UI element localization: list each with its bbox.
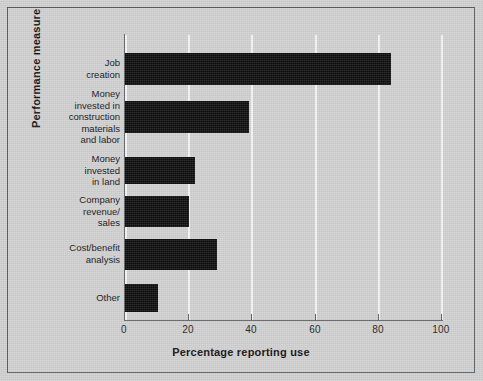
bar-other[interactable] — [125, 284, 158, 312]
chart-screenshot: 0 20 40 60 80 100 Job creation Money inv… — [0, 0, 483, 381]
x-tick-80 — [378, 314, 379, 321]
plot-area — [125, 35, 442, 320]
x-tick-label-20: 20 — [182, 324, 194, 335]
x-tick-20 — [188, 314, 189, 321]
x-tick-60 — [315, 314, 316, 321]
category-label-other: Other — [28, 292, 120, 304]
x-tick-label-40: 40 — [245, 324, 257, 335]
bar-money-construction[interactable] — [125, 101, 249, 133]
bar-cost-benefit-analysis[interactable] — [125, 239, 217, 270]
category-label-company-revenue-sales: Company revenue/ sales — [28, 194, 120, 229]
x-tick-label-100: 100 — [432, 324, 449, 335]
bar-money-land[interactable] — [125, 157, 195, 184]
category-label-money-land: Money invested in land — [28, 153, 120, 188]
x-tick-0 — [124, 314, 125, 321]
x-axis-title: Percentage reporting use — [8, 346, 474, 358]
bar-company-revenue-sales[interactable] — [125, 196, 189, 227]
x-tick-label-80: 80 — [372, 324, 384, 335]
y-axis-title: Performance measure — [30, 9, 42, 128]
x-axis-line — [124, 320, 443, 321]
figure-frame: 0 20 40 60 80 100 Job creation Money inv… — [7, 7, 475, 373]
category-label-cost-benefit-analysis: Cost/benefit analysis — [28, 242, 120, 265]
x-tick-label-60: 60 — [309, 324, 321, 335]
bar-job-creation[interactable] — [125, 53, 391, 85]
x-tick-100 — [441, 314, 442, 321]
y-axis-line — [124, 34, 125, 321]
x-tick-40 — [251, 314, 252, 321]
x-tick-label-0: 0 — [121, 324, 127, 335]
gridline-100 — [441, 35, 443, 320]
